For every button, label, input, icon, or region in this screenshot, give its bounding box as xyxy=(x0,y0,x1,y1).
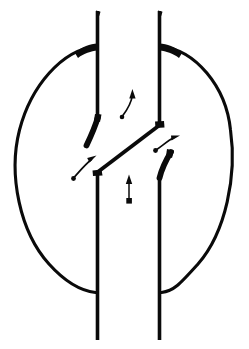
left-arrow-tail-dot xyxy=(71,176,76,181)
figure-canvas xyxy=(0,0,249,349)
center-upper-arrow-tail-dot xyxy=(120,115,125,120)
figure-background xyxy=(0,0,249,349)
center-lower-arrow-tail-square xyxy=(126,198,132,204)
right-arrow-tail-dot xyxy=(153,148,158,153)
diagonal-left-junction xyxy=(93,170,103,177)
technical-line-drawing xyxy=(0,0,249,349)
diagonal-right-junction xyxy=(155,121,165,128)
